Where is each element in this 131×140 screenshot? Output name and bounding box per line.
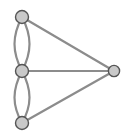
right-node[interactable]: [108, 65, 119, 76]
bottom-node[interactable]: [16, 117, 29, 130]
graph-canvas: [0, 0, 131, 140]
graph-figure: [0, 0, 131, 140]
top-node[interactable]: [16, 11, 29, 24]
middle-node[interactable]: [16, 65, 29, 78]
